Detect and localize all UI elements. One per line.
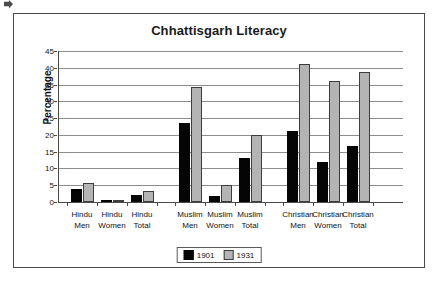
x-axis-label-muslim-women: MuslimWomen bbox=[206, 209, 233, 231]
legend-item-1931[interactable]: 1931 bbox=[224, 250, 255, 260]
bar-group bbox=[175, 51, 205, 202]
x-axis-line bbox=[58, 202, 403, 203]
x-tick-mark bbox=[97, 202, 98, 206]
x-axis-label-christian-total: ChristianTotal bbox=[342, 209, 374, 231]
x-axis-label-hindu-women: HinduWomen bbox=[98, 209, 125, 231]
bar-group bbox=[127, 51, 157, 202]
y-tick-mark-0 bbox=[54, 202, 57, 203]
x-axis-label-christian-women: ChristianWomen bbox=[312, 209, 344, 231]
bar-group bbox=[313, 51, 343, 202]
x-axis-label-line: Women bbox=[206, 220, 233, 231]
bar-group bbox=[283, 51, 313, 202]
x-axis-label-line: Men bbox=[282, 220, 314, 231]
bar-1901-christian-total bbox=[347, 146, 358, 202]
x-tick-mark bbox=[157, 202, 158, 206]
x-axis-label-line: Christian bbox=[312, 209, 344, 220]
x-tick-mark bbox=[313, 202, 314, 206]
bar-1901-hindu-men bbox=[71, 189, 82, 202]
x-tick-mark bbox=[283, 202, 284, 206]
x-axis-label-line: Total bbox=[237, 220, 262, 231]
x-tick-mark bbox=[265, 202, 266, 206]
x-tick-mark bbox=[235, 202, 236, 206]
x-axis-label-line: Hindu bbox=[72, 209, 93, 220]
bar-1901-christian-women bbox=[317, 162, 328, 202]
y-tick-mark-40 bbox=[54, 68, 57, 69]
bar-1901-hindu-total bbox=[131, 195, 142, 202]
x-tick-mark bbox=[205, 202, 206, 206]
y-tick-mark-5 bbox=[54, 185, 57, 186]
y-tick-label-35: 35 bbox=[45, 80, 54, 89]
y-tick-label-20: 20 bbox=[45, 130, 54, 139]
bar-1931-hindu-total bbox=[143, 191, 154, 202]
y-tick-label-40: 40 bbox=[45, 63, 54, 72]
chart-frame: Chhattisgarh Literacy Percentage 0510152… bbox=[13, 13, 425, 268]
bar-1931-hindu-men bbox=[83, 183, 94, 202]
y-tick-label-15: 15 bbox=[45, 147, 54, 156]
y-tick-label-25: 25 bbox=[45, 114, 54, 123]
x-tick-mark bbox=[343, 202, 344, 206]
x-tick-mark bbox=[175, 202, 176, 206]
scan-artifact bbox=[4, 0, 13, 9]
y-axis-tick-labels: 051015202530354045 bbox=[28, 51, 54, 203]
y-axis-line bbox=[58, 51, 59, 203]
y-tick-label-45: 45 bbox=[45, 47, 54, 56]
y-tick-mark-45 bbox=[54, 51, 57, 52]
chart-title: Chhattisgarh Literacy bbox=[14, 23, 424, 38]
x-axis-label-line: Hindu bbox=[132, 209, 153, 220]
bar-group bbox=[67, 51, 97, 202]
x-axis-label-line: Christian bbox=[342, 209, 374, 220]
bar-1901-muslim-men bbox=[179, 123, 190, 202]
bar-group bbox=[205, 51, 235, 202]
x-axis-label-line: Christian bbox=[282, 209, 314, 220]
bar-1931-christian-women bbox=[329, 81, 340, 202]
bar-1901-christian-men bbox=[287, 131, 298, 202]
x-axis-label-line: Total bbox=[132, 220, 153, 231]
y-tick-mark-15 bbox=[54, 152, 57, 153]
x-axis-label-line: Hindu bbox=[98, 209, 125, 220]
legend-item-1901[interactable]: 1901 bbox=[184, 250, 215, 260]
x-axis-label-muslim-men: MuslimMen bbox=[177, 209, 202, 231]
y-tick-mark-20 bbox=[54, 135, 57, 136]
bar-1931-muslim-total bbox=[251, 135, 262, 202]
x-axis-label-line: Muslim bbox=[206, 209, 233, 220]
y-tick-mark-30 bbox=[54, 101, 57, 102]
x-axis-label-line: Men bbox=[72, 220, 93, 231]
y-tick-mark-35 bbox=[54, 85, 57, 86]
chart-legend: 19011931 bbox=[177, 247, 262, 263]
legend-label-1931: 1931 bbox=[237, 251, 255, 260]
x-axis-label-line: Total bbox=[342, 220, 374, 231]
x-axis-label-line: Women bbox=[312, 220, 344, 231]
x-axis-label-muslim-total: MuslimTotal bbox=[237, 209, 262, 231]
bar-1931-muslim-women bbox=[221, 185, 232, 202]
y-tick-mark-10 bbox=[54, 168, 57, 169]
x-axis-label-line: Women bbox=[98, 220, 125, 231]
x-axis-label-hindu-men: HinduMen bbox=[72, 209, 93, 231]
legend-label-1901: 1901 bbox=[197, 251, 215, 260]
y-tick-label-10: 10 bbox=[45, 164, 54, 173]
bar-group bbox=[235, 51, 265, 202]
bar-1931-christian-total bbox=[359, 72, 370, 202]
legend-swatch-icon-1901 bbox=[184, 250, 194, 260]
y-tick-label-30: 30 bbox=[45, 97, 54, 106]
x-tick-mark bbox=[373, 202, 374, 206]
x-axis-label-hindu-total: HinduTotal bbox=[132, 209, 153, 231]
bar-1931-muslim-men bbox=[191, 87, 202, 202]
y-tick-mark-25 bbox=[54, 118, 57, 119]
legend-swatch-icon-1931 bbox=[224, 250, 234, 260]
bar-group bbox=[97, 51, 127, 202]
x-tick-mark bbox=[127, 202, 128, 206]
x-tick-mark bbox=[67, 202, 68, 206]
x-axis-label-line: Men bbox=[177, 220, 202, 231]
bar-1931-christian-men bbox=[299, 64, 310, 202]
x-axis-label-line: Muslim bbox=[177, 209, 202, 220]
x-axis-tick-labels: HinduMenHinduWomenHinduTotalMuslimMenMus… bbox=[58, 206, 403, 240]
bar-group bbox=[343, 51, 373, 202]
bar-1901-muslim-total bbox=[239, 158, 250, 202]
plot-area bbox=[58, 51, 403, 202]
x-axis-label-christian-men: ChristianMen bbox=[282, 209, 314, 231]
x-axis-label-line: Muslim bbox=[237, 209, 262, 220]
